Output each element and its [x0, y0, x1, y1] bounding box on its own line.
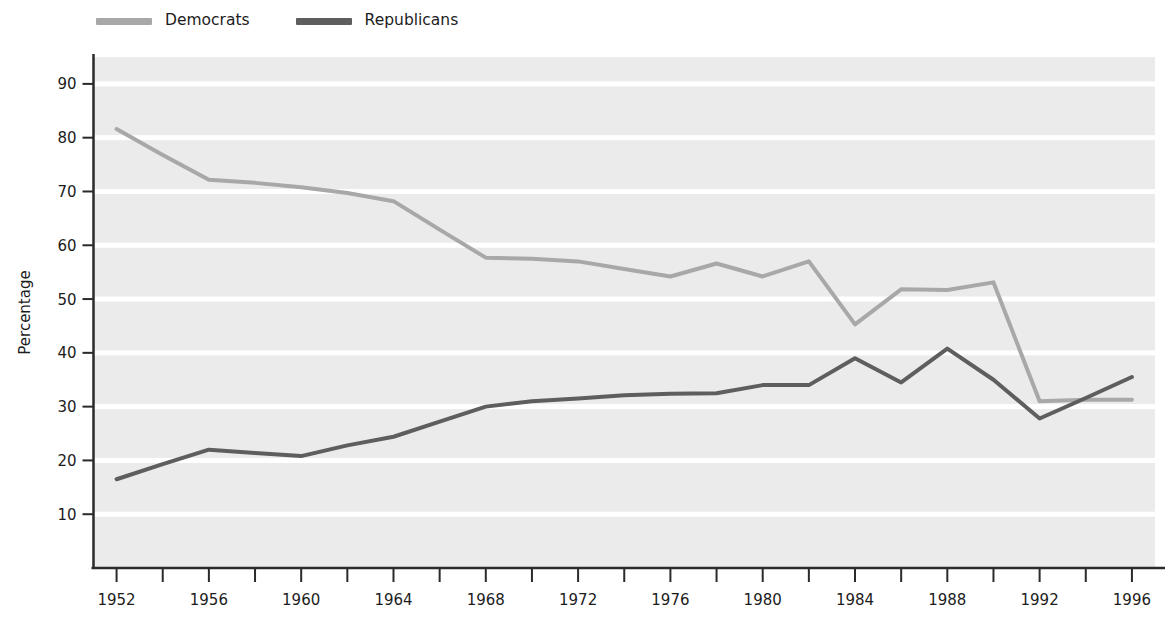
- x-axis-ticks-group: 1952195619601964196819721976198019841988…: [97, 568, 1151, 609]
- plot-background-group: [94, 57, 1156, 568]
- y-tick-label-80: 80: [57, 129, 76, 147]
- gridline-70: [94, 189, 1156, 194]
- line-chart-plot: 102030405060708090 195219561960196419681…: [0, 0, 1168, 633]
- y-tick-label-10: 10: [57, 506, 76, 524]
- y-tick-label-60: 60: [57, 237, 76, 255]
- gridline-40: [94, 350, 1156, 355]
- x-tick-label-1972: 1972: [559, 591, 597, 609]
- gridline-10: [94, 512, 1156, 517]
- x-tick-label-1952: 1952: [97, 591, 135, 609]
- x-tick-label-1956: 1956: [190, 591, 228, 609]
- x-tick-label-1992: 1992: [1021, 591, 1059, 609]
- y-tick-label-70: 70: [57, 183, 76, 201]
- gridline-60: [94, 243, 1156, 248]
- y-axis-ticks-group: 102030405060708090: [57, 75, 93, 523]
- chart-figure: Democrats Republicans 102030405060708090…: [0, 0, 1168, 633]
- x-tick-label-1996: 1996: [1113, 591, 1151, 609]
- x-tick-label-1960: 1960: [282, 591, 320, 609]
- y-tick-label-90: 90: [57, 75, 76, 93]
- gridline-90: [94, 81, 1156, 86]
- y-tick-label-40: 40: [57, 344, 76, 362]
- y-tick-label-20: 20: [57, 452, 76, 470]
- gridline-20: [94, 458, 1156, 463]
- gridline-50: [94, 297, 1156, 302]
- x-tick-label-1988: 1988: [928, 591, 966, 609]
- x-tick-label-1980: 1980: [744, 591, 782, 609]
- x-tick-label-1984: 1984: [836, 591, 874, 609]
- plot-area-background: [94, 57, 1156, 568]
- x-tick-label-1964: 1964: [374, 591, 412, 609]
- y-tick-label-50: 50: [57, 291, 76, 309]
- y-tick-label-30: 30: [57, 398, 76, 416]
- y-axis-title: Percentage: [16, 270, 34, 354]
- gridline-80: [94, 135, 1156, 140]
- x-tick-label-1968: 1968: [467, 591, 505, 609]
- gridline-30: [94, 404, 1156, 409]
- x-tick-label-1976: 1976: [651, 591, 689, 609]
